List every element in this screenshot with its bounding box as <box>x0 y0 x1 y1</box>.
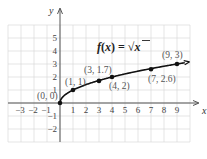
data-point <box>71 88 76 93</box>
x-tick-label: 9 <box>175 105 180 115</box>
data-point <box>175 62 180 67</box>
point-label: (7, 2.6) <box>148 74 176 85</box>
y-tick-label: 2 <box>53 72 58 82</box>
point-label: (3, 1.7) <box>84 65 112 76</box>
point-label: (1, 1) <box>65 77 86 88</box>
x-tick-label: 2 <box>84 105 89 115</box>
point-label: (9, 3) <box>162 50 183 61</box>
data-point <box>110 75 115 80</box>
x-tick-label: 5 <box>123 105 128 115</box>
x-tick-label: −2 <box>28 105 38 115</box>
x-tick-label: 3 <box>97 105 102 115</box>
x-tick-label: 8 <box>162 105 167 115</box>
point-label: (4, 2) <box>109 81 130 92</box>
data-point <box>149 67 154 72</box>
y-tick-label: 5 <box>53 33 58 43</box>
x-tick-label: −3 <box>15 105 25 115</box>
data-point <box>97 79 102 84</box>
x-tick-label: 4 <box>110 105 115 115</box>
x-tick-label: 7 <box>149 105 154 115</box>
function-label-text: f(x) = √x <box>97 40 140 54</box>
y-axis-label: y <box>48 5 54 16</box>
x-axis-label: x <box>201 105 207 116</box>
y-tick-label: 4 <box>53 46 58 56</box>
x-tick-label: 1 <box>71 105 76 115</box>
x-tick-label: 6 <box>136 105 141 115</box>
y-tick-label: −2 <box>47 124 57 134</box>
y-tick-label: −1 <box>47 111 57 121</box>
point-labels: (0, 0)(1, 1)(3, 1.7)(4, 2)(7, 2.6)(9, 3) <box>37 50 183 102</box>
y-tick-label: 3 <box>53 59 58 69</box>
function-label: f(x) = √x <box>97 40 150 54</box>
point-label: (0, 0) <box>37 91 58 102</box>
data-point <box>58 101 63 106</box>
sqrt-function-graph: −3−2−1123456789−2−112345 (0, 0)(1, 1)(3,… <box>0 0 207 159</box>
